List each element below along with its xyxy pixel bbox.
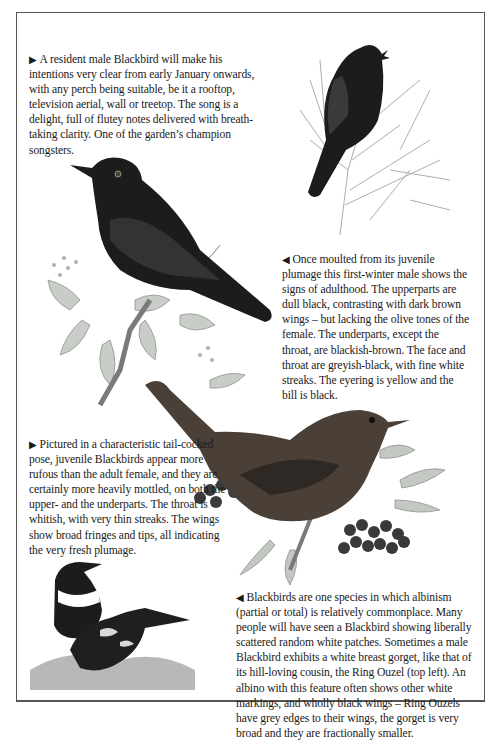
eye bbox=[369, 417, 375, 423]
right-arrow-icon: ▶ bbox=[29, 439, 37, 450]
caption-text: Blackbirds are one species in which albi… bbox=[236, 591, 472, 740]
caption-singing-male: ▶A resident male Blackbird will make his… bbox=[29, 52, 269, 158]
eye bbox=[115, 171, 121, 177]
caption-text: A resident male Blackbird will make his … bbox=[29, 53, 254, 157]
caption-albinism: ◀Blackbirds are one species in which alb… bbox=[236, 590, 476, 741]
caption-text: Pictured in a characteristic tail-cocked… bbox=[29, 438, 225, 557]
caption-juvenile: ▶Pictured in a characteristic tail-cocke… bbox=[29, 437, 234, 558]
illustration-singing-blackbird bbox=[290, 20, 470, 235]
left-arrow-icon: ◀ bbox=[282, 254, 290, 265]
right-arrow-icon: ▶ bbox=[29, 54, 37, 65]
left-arrow-icon: ◀ bbox=[236, 592, 244, 603]
caption-first-winter-male: ◀Once moulted from its juvenile plumage … bbox=[282, 252, 470, 403]
illustration-ring-ouzel-and-albino bbox=[30, 550, 200, 690]
caption-text: Once moulted from its juvenile plumage t… bbox=[282, 253, 469, 402]
